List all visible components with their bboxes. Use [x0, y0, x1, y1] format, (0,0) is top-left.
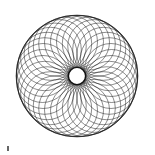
image-canvas: Spirograph Guilloche Rose: [0, 0, 155, 155]
guilloche-rose-figure: [0, 0, 155, 155]
scan-speck-artifact: [7, 146, 9, 151]
center-hub-group: [68, 67, 85, 84]
center-hole: [68, 67, 85, 84]
